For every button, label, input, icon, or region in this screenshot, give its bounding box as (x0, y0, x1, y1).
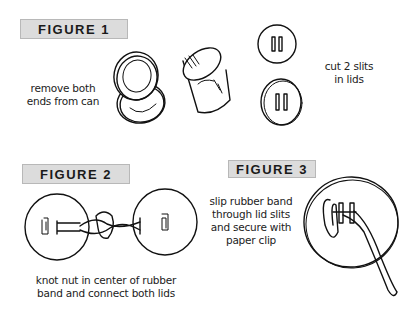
connected-lids-drawing (25, 189, 197, 260)
illustrations (0, 0, 411, 316)
lid-with-band-and-clip-drawing (300, 173, 401, 295)
open-can-drawing (177, 41, 230, 112)
can-lids-drawing (110, 49, 168, 127)
lids-with-slits-drawing (258, 25, 302, 125)
